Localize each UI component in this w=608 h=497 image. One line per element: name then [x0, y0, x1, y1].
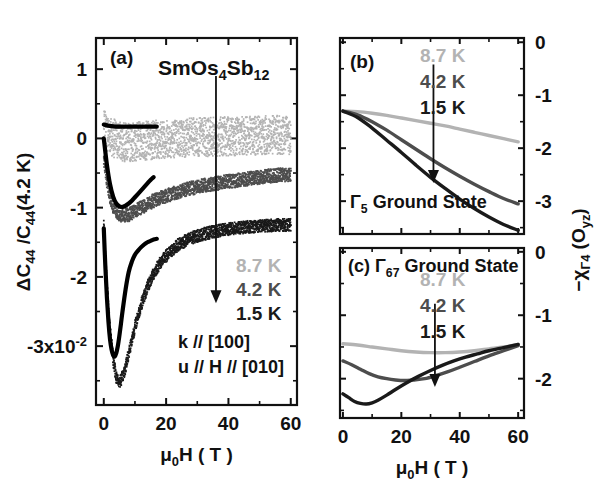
data-point	[146, 293, 148, 295]
data-point	[152, 156, 154, 158]
data-point	[242, 148, 244, 150]
data-point	[185, 245, 187, 247]
data-point	[247, 151, 249, 153]
data-point	[284, 121, 286, 123]
data-point	[198, 122, 200, 124]
data-point	[190, 121, 192, 123]
data-point	[168, 133, 170, 135]
data-point	[169, 147, 171, 149]
data-point	[194, 129, 196, 131]
data-point	[230, 176, 232, 178]
data-point	[224, 223, 226, 225]
data-point	[239, 151, 241, 153]
data-point	[223, 121, 225, 123]
data-point	[133, 217, 135, 219]
data-point	[188, 141, 190, 143]
panel-b-legend-42: 4.2 K	[420, 71, 466, 92]
data-point	[151, 122, 153, 124]
data-point	[127, 360, 129, 362]
data-point	[255, 153, 257, 155]
data-point	[268, 135, 270, 137]
data-point	[257, 231, 259, 233]
data-point	[265, 143, 267, 145]
data-point	[199, 185, 201, 187]
data-point	[117, 137, 119, 139]
data-point	[183, 142, 185, 144]
data-point	[109, 144, 111, 146]
data-point	[234, 187, 236, 189]
data-point	[287, 130, 289, 132]
data-point	[240, 146, 242, 148]
data-point	[117, 157, 119, 159]
data-point	[115, 370, 117, 372]
data-point	[273, 223, 275, 225]
data-point	[175, 135, 177, 137]
data-point	[127, 152, 129, 154]
panel-a-note-1: u // H // [010]	[178, 357, 284, 377]
data-point	[109, 133, 111, 135]
data-point	[264, 138, 266, 140]
data-point	[125, 123, 127, 125]
data-point	[257, 149, 259, 151]
data-point	[139, 131, 141, 133]
data-point	[140, 302, 142, 304]
data-point	[118, 147, 120, 149]
data-point	[135, 160, 137, 162]
data-point	[181, 121, 183, 123]
data-point	[152, 120, 154, 122]
data-point	[209, 236, 211, 238]
data-point	[226, 121, 228, 123]
data-point	[262, 122, 264, 124]
data-point	[167, 196, 169, 198]
data-point	[193, 118, 195, 120]
panel-b-ytick-label: -2	[535, 138, 552, 159]
data-point	[205, 127, 207, 129]
data-point	[164, 157, 166, 159]
data-point	[230, 150, 232, 152]
data-point	[232, 187, 234, 189]
panel-c-legend-15: 1.5 K	[420, 321, 466, 342]
data-point	[151, 158, 153, 160]
data-point	[170, 190, 172, 192]
data-point	[239, 148, 241, 150]
data-point	[141, 307, 143, 309]
data-point	[283, 153, 285, 155]
data-point	[258, 137, 260, 139]
data-point	[222, 135, 224, 137]
data-point	[139, 311, 141, 313]
data-point	[123, 148, 125, 150]
data-point	[273, 129, 275, 131]
data-point	[136, 148, 138, 150]
data-point	[229, 153, 231, 155]
data-point	[122, 160, 124, 162]
data-point	[226, 131, 228, 133]
data-point	[180, 148, 182, 150]
data-point	[266, 178, 268, 180]
data-point	[246, 116, 248, 118]
data-point	[252, 129, 254, 131]
scientific-figure-svg: 10-1-2-3x10-20204060μ0H ( T )ΔC44 /C44(4…	[0, 0, 608, 497]
data-point	[290, 218, 292, 220]
data-point	[123, 151, 125, 153]
data-point	[150, 136, 152, 138]
data-point	[186, 152, 188, 154]
data-point	[276, 143, 278, 145]
data-point	[199, 236, 201, 238]
data-point	[201, 131, 203, 133]
data-point	[244, 130, 246, 132]
data-point	[113, 143, 115, 145]
data-point	[192, 146, 194, 148]
data-point	[195, 133, 197, 135]
data-point	[137, 151, 139, 153]
data-point	[130, 349, 132, 351]
data-point	[128, 142, 130, 144]
data-point	[169, 127, 171, 129]
data-point	[283, 230, 285, 232]
data-point	[187, 192, 189, 194]
data-point	[230, 140, 232, 142]
data-point	[133, 329, 135, 331]
data-point	[144, 151, 146, 153]
data-point	[157, 149, 159, 151]
data-point	[271, 138, 273, 140]
data-point	[244, 126, 246, 128]
